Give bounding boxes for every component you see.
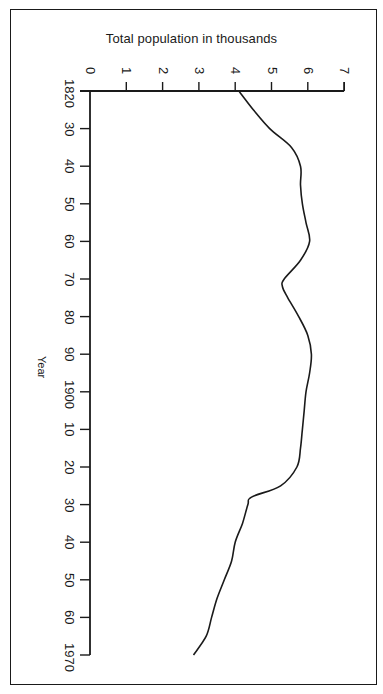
year-tick-label: 50	[62, 197, 77, 211]
year-tick-label: 30	[62, 122, 77, 136]
year-tick-label: 50	[62, 573, 77, 587]
year-tick-label: 20	[62, 460, 77, 474]
year-tick-label: 80	[62, 310, 77, 324]
year-tick-label: 70	[62, 272, 77, 286]
value-tick-label: 1	[119, 61, 134, 81]
value-tick-label: 4	[228, 61, 243, 81]
value-tick-label: 3	[191, 61, 206, 81]
population-line-chart	[0, 0, 383, 694]
value-tick-label: 0	[83, 61, 98, 81]
year-tick-label: 40	[62, 159, 77, 173]
value-tick-label: 5	[264, 61, 279, 81]
year-tick-label: 60	[62, 610, 77, 624]
year-tick-label: 90	[62, 347, 77, 361]
value-tick-label: 7	[337, 61, 352, 81]
value-tick-label: 2	[155, 61, 170, 81]
year-tick-label: 60	[62, 234, 77, 248]
year-tick-label: 40	[62, 535, 77, 549]
year-tick-label: 1970	[62, 643, 77, 672]
value-tick-label: 6	[300, 61, 315, 81]
year-tick-label: 1900	[62, 380, 77, 409]
population-series-line	[194, 91, 312, 655]
year-tick-label: 10	[62, 422, 77, 436]
year-tick-label: 1820	[62, 79, 77, 108]
year-tick-label: 30	[62, 498, 77, 512]
